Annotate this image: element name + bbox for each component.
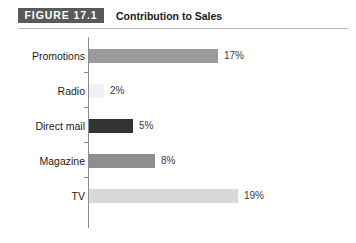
bar-row: TV19% xyxy=(0,178,356,213)
bar-category-label: Direct mail xyxy=(35,108,85,143)
bar-value-label: 5% xyxy=(139,121,153,131)
bar-row: Direct mail5% xyxy=(0,108,356,143)
axis-tick xyxy=(84,177,88,178)
bar-category-label: Radio xyxy=(58,73,85,108)
bar-row: Promotions17% xyxy=(0,38,356,73)
bar-track: 17% xyxy=(89,38,244,73)
bar-track: 2% xyxy=(89,73,124,108)
bar-rect xyxy=(89,119,133,133)
bar-category-label: Promotions xyxy=(32,38,85,73)
bar-category-label: Magazine xyxy=(39,143,85,178)
bar-rect xyxy=(89,189,238,203)
header-divider xyxy=(18,28,348,29)
figure-container: FIGURE 17.1 Contribution to Sales Promot… xyxy=(0,0,356,243)
figure-number-label: FIGURE 17.1 xyxy=(25,10,98,21)
bar-value-label: 17% xyxy=(224,51,244,61)
axis-tick xyxy=(84,107,88,108)
bar-rect xyxy=(89,49,218,63)
bar-value-label: 19% xyxy=(244,191,264,201)
bar-track: 19% xyxy=(89,178,264,213)
figure-title: Contribution to Sales xyxy=(116,8,222,23)
bar-track: 8% xyxy=(89,143,175,178)
bar-value-label: 2% xyxy=(110,86,124,96)
bar-rect xyxy=(89,84,104,98)
axis-tick xyxy=(84,72,88,73)
bar-rect xyxy=(89,154,155,168)
bar-value-label: 8% xyxy=(161,156,175,166)
bar-track: 5% xyxy=(89,108,153,143)
bar-category-label: TV xyxy=(72,178,85,213)
bar-row: Radio2% xyxy=(0,73,356,108)
figure-number-badge: FIGURE 17.1 xyxy=(18,8,104,23)
figure-header: FIGURE 17.1 Contribution to Sales xyxy=(0,0,356,32)
axis-tick xyxy=(84,142,88,143)
bar-chart: Promotions17%Radio2%Direct mail5%Magazin… xyxy=(0,32,356,243)
bar-row: Magazine8% xyxy=(0,143,356,178)
